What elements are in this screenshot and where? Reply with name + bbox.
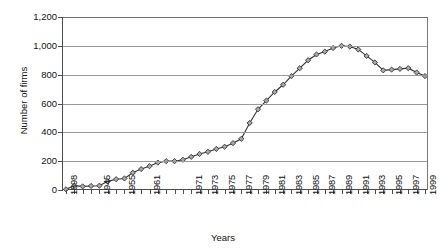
data-point-marker (197, 151, 202, 156)
x-axis-tick (375, 190, 376, 194)
x-axis-tick (166, 190, 167, 194)
data-point-marker (205, 149, 210, 154)
x-axis-tick-label: 1991 (361, 175, 371, 195)
y-axis-tick-label: 1,200 (0, 12, 57, 22)
x-axis-tick (258, 190, 259, 194)
data-point-marker (147, 164, 152, 169)
x-axis-tick-label: 1955 (127, 175, 137, 195)
y-axis-tick-label: 800 (0, 70, 57, 80)
x-axis-tick-label: 1971 (194, 175, 204, 195)
x-axis-tick (99, 190, 100, 194)
x-axis-tick (392, 190, 393, 194)
data-point-marker (139, 166, 144, 171)
x-axis-tick (358, 190, 359, 194)
x-axis-tick (291, 190, 292, 194)
data-point-marker (247, 120, 252, 125)
gridline (63, 161, 428, 162)
x-axis-tick-label: 1898 (69, 175, 79, 195)
y-axis-tick (58, 104, 63, 105)
data-point-marker (222, 144, 227, 149)
data-point-marker (322, 49, 327, 54)
x-axis-tick-label: 1985 (311, 175, 321, 195)
y-axis-tick-label: 200 (0, 156, 57, 166)
x-axis-tick (425, 190, 426, 194)
y-axis-tick-label: 0 (0, 185, 57, 195)
data-point-marker (389, 67, 394, 72)
x-axis-tick (150, 190, 151, 194)
y-axis-tick (58, 46, 63, 47)
data-point-marker (397, 66, 402, 71)
data-point-marker (113, 177, 118, 182)
x-axis-tick (175, 190, 176, 194)
y-axis-tick (58, 161, 63, 162)
x-axis-tick (308, 190, 309, 194)
line-chart: Number of firms Years 02004006008001,000… (0, 0, 446, 250)
x-axis-tick-label: 1975 (227, 175, 237, 195)
y-axis-tick (58, 75, 63, 76)
x-axis-tick-label: 1997 (411, 175, 421, 195)
x-axis-tick-label: 1989 (344, 175, 354, 195)
y-axis-tick-label: 600 (0, 99, 57, 109)
x-axis-tick (141, 190, 142, 194)
gridline (63, 46, 428, 47)
data-point-marker (88, 183, 93, 188)
x-axis-tick (325, 190, 326, 194)
plot-right-border (427, 17, 428, 190)
x-axis-tick (408, 190, 409, 194)
data-point-marker (406, 66, 411, 71)
x-axis-tick (241, 190, 242, 194)
x-axis-tick (83, 190, 84, 194)
data-point-marker (230, 141, 235, 146)
x-axis-tick (225, 190, 226, 194)
x-axis-tick (66, 190, 67, 194)
plot-area (62, 17, 427, 190)
data-point-marker (189, 154, 194, 159)
y-axis-tick-label: 1,000 (0, 41, 57, 51)
y-axis-tick (58, 17, 63, 18)
data-point-marker (214, 146, 219, 151)
x-axis-tick-label: 1961 (152, 175, 162, 195)
x-axis-tick-label: 1987 (327, 175, 337, 195)
x-axis-tick-label: 1995 (394, 175, 404, 195)
x-axis-tick (191, 190, 192, 194)
x-axis-tick (183, 190, 184, 194)
x-axis-tick (91, 190, 92, 194)
gridline (63, 104, 428, 105)
x-axis-tick-label: 1999 (428, 175, 438, 195)
x-axis-tick-label: 1979 (261, 175, 271, 195)
x-axis-tick-label: 1945 (102, 175, 112, 195)
y-axis-tick-label: 400 (0, 127, 57, 137)
data-point-marker (80, 184, 85, 189)
x-axis-tick-label: 1993 (377, 175, 387, 195)
gridline (63, 132, 428, 133)
data-point-marker (239, 136, 244, 141)
series-line (66, 46, 425, 189)
x-axis-tick (275, 190, 276, 194)
x-axis-tick (124, 190, 125, 194)
y-axis-tick (58, 132, 63, 133)
x-axis-tick (208, 190, 209, 194)
x-axis-tick-label: 1973 (210, 175, 220, 195)
x-axis-tick-label: 1981 (277, 175, 287, 195)
x-axis-tick-label: 1977 (244, 175, 254, 195)
x-axis-title: Years (0, 232, 446, 243)
x-axis-tick (342, 190, 343, 194)
x-axis-tick (116, 190, 117, 194)
y-axis-tick (58, 190, 63, 191)
x-axis-tick-label: 1983 (294, 175, 304, 195)
gridline (63, 75, 428, 76)
